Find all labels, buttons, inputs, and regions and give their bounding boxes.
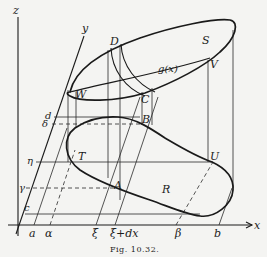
z-axis-label: z (12, 4, 19, 17)
label-g-x: g(x) (158, 63, 178, 74)
tick-a: a (29, 227, 36, 240)
tick-d: d (45, 110, 51, 121)
diagram-canvas: z y x a α ξ ξ+dx β b c γ η δ d D C W V S… (0, 0, 267, 257)
y-axis-label: y (81, 22, 89, 35)
label-D: D (109, 35, 119, 48)
figure-10-32: z y x a α ξ ξ+dx β b c γ η δ d D C W V S… (0, 0, 267, 257)
cross-section-front (111, 48, 145, 96)
tick-eta: η (27, 155, 33, 166)
tick-b: b (214, 227, 221, 240)
tick-beta: β (174, 227, 181, 240)
guide-a (34, 128, 67, 225)
slanted-guides (34, 97, 232, 225)
figure-caption: Fig. 10.32. (110, 245, 159, 254)
label-B: B (141, 113, 150, 126)
tick-gamma: γ (19, 182, 25, 193)
guide-xi-dx (115, 97, 158, 225)
label-S: S (202, 34, 210, 47)
label-W: W (75, 88, 88, 101)
label-R: R (161, 183, 170, 196)
label-V: V (210, 58, 219, 71)
tick-c: c (24, 202, 30, 213)
vertical-guides (68, 30, 233, 200)
tick-alpha: α (45, 227, 53, 240)
label-U: U (210, 150, 220, 163)
label-A: A (113, 179, 122, 192)
x-axis-label: x (254, 219, 261, 232)
label-T: T (78, 150, 87, 163)
label-C: C (141, 93, 150, 106)
horizontal-guides (25, 117, 213, 214)
tick-xi-dx: ξ+dx (110, 227, 139, 240)
cross-section-back (121, 44, 155, 92)
tick-xi: ξ (92, 227, 99, 240)
